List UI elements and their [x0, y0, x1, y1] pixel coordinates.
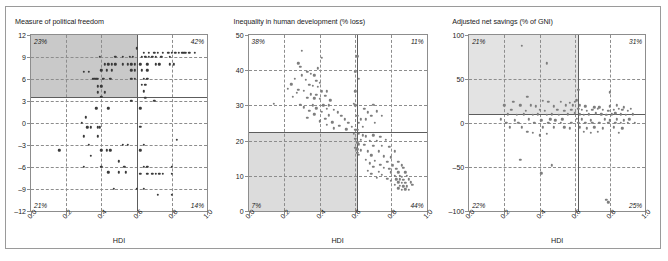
x-tick-mark	[355, 212, 356, 215]
data-point	[598, 106, 600, 108]
data-point	[326, 108, 328, 110]
x-tick-mark	[172, 212, 173, 215]
data-point	[618, 108, 620, 110]
data-point	[581, 118, 583, 120]
y-tick-label: –6	[6, 164, 26, 171]
y-tick-mark	[465, 35, 468, 36]
data-point	[406, 185, 408, 187]
y-tick-mark	[245, 70, 248, 71]
data-point	[146, 69, 148, 71]
x-tick-mark	[427, 212, 428, 215]
data-point	[331, 121, 333, 123]
data-point	[563, 126, 565, 128]
x-tick-mark	[66, 212, 67, 215]
quadrant-divider-vertical	[137, 35, 138, 211]
x-tick-mark	[207, 212, 208, 215]
gridline-horizontal	[31, 101, 207, 102]
data-point	[582, 131, 584, 133]
data-point	[393, 150, 395, 152]
data-point	[374, 122, 376, 124]
y-tick-label: 6	[6, 76, 26, 83]
data-point	[360, 118, 362, 120]
gridline-vertical	[284, 35, 285, 211]
data-point	[141, 84, 143, 86]
data-point	[287, 87, 289, 89]
y-tick-label: 12	[6, 32, 26, 39]
x-tick-mark	[645, 212, 646, 215]
data-point	[626, 109, 628, 111]
data-point	[399, 184, 401, 186]
data-point	[365, 118, 367, 120]
quadrant-label-bottom-right: 25%	[629, 202, 642, 209]
data-point	[593, 126, 595, 128]
y-tick-label: 20	[225, 137, 244, 144]
data-point	[97, 135, 99, 137]
data-point	[301, 74, 303, 76]
data-point	[400, 189, 402, 191]
panel-political-freedom: Measure of political freedom 23% 42% 21%…	[5, 6, 224, 249]
data-point	[139, 149, 141, 151]
data-point	[360, 149, 362, 151]
data-point	[596, 131, 598, 133]
scatter-plot-area: 38% 11% 7% 44%	[248, 34, 428, 212]
data-point	[336, 111, 338, 113]
data-point	[105, 149, 107, 151]
data-point	[377, 170, 379, 172]
data-point	[531, 131, 533, 133]
data-point	[311, 85, 313, 87]
data-point	[162, 51, 164, 53]
data-point	[623, 119, 625, 121]
data-point	[345, 128, 347, 130]
data-point	[584, 105, 586, 107]
y-tick-mark	[465, 123, 468, 124]
data-point	[58, 149, 60, 151]
data-point	[545, 132, 547, 134]
quadrant-label-bottom-right: 44%	[410, 202, 423, 209]
data-point	[157, 51, 159, 53]
data-point	[146, 172, 148, 174]
quadrant-label-bottom-right: 14%	[191, 202, 204, 209]
y-tick-label: –3	[6, 142, 26, 149]
data-point	[84, 116, 86, 118]
data-point	[365, 159, 367, 161]
data-point	[402, 167, 404, 169]
data-point	[400, 182, 402, 184]
data-point	[618, 131, 620, 133]
quadrant-label-top-right: 31%	[629, 38, 642, 45]
data-point	[361, 125, 363, 127]
data-point	[372, 166, 374, 168]
data-point	[397, 181, 399, 183]
scatter-plot-area: 23% 42% 21% 14%	[30, 34, 208, 212]
y-tick-mark	[27, 189, 30, 190]
shaded-quadrant	[249, 132, 358, 211]
x-axis-title: HDI	[248, 236, 428, 245]
quadrant-label-top-left: 21%	[472, 38, 485, 45]
data-point	[155, 172, 157, 174]
data-point	[568, 127, 570, 129]
data-point	[593, 106, 595, 108]
data-point	[500, 118, 502, 120]
data-point	[361, 134, 363, 136]
data-point	[301, 50, 303, 52]
data-point	[526, 131, 528, 133]
data-point	[297, 62, 299, 64]
y-tick-mark	[27, 57, 30, 58]
y-tick-mark	[27, 145, 30, 146]
data-point	[90, 155, 92, 157]
data-point	[519, 159, 521, 161]
data-point	[162, 172, 164, 174]
data-point	[83, 135, 85, 137]
data-point	[303, 89, 305, 91]
data-point	[408, 189, 410, 191]
data-point	[368, 162, 370, 164]
x-tick-mark	[137, 212, 138, 215]
y-tick-label: –100	[443, 208, 464, 215]
data-point	[383, 155, 385, 157]
data-point	[381, 145, 383, 147]
data-point	[155, 63, 157, 65]
data-point	[554, 119, 556, 121]
data-point	[174, 51, 176, 53]
y-tick-mark	[27, 167, 30, 168]
data-point	[381, 115, 383, 117]
data-point	[367, 169, 369, 171]
